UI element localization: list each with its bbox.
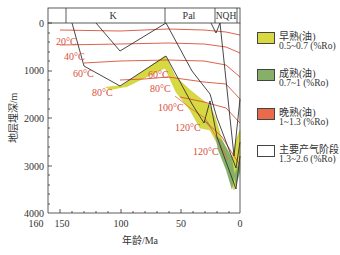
label-100c: 100°C [158,102,184,113]
swatch-gas [257,145,275,157]
legend-range: 1.3~2.6 (%Ro) [279,154,336,164]
ytick-3000: 3000 [24,161,44,172]
legend-range: 1~1.3 (%Ro) [279,117,328,127]
isotherm-20 [60,29,240,35]
ytick-2000: 2000 [24,113,44,124]
unit-NQH: NQH [216,11,237,21]
label-120c-2: 120°C [193,146,219,157]
xtick-150: 150 [55,218,70,229]
legend-range: 0.5~0.7 (%Ro) [279,41,336,51]
swatch-early [257,32,275,44]
label-40c: 40°C [64,51,85,62]
label-60c-2: 60°C [148,69,169,80]
isotherms [60,29,240,165]
burial-history-chart: K Pal NQH 20°C 40°C 60°C 80°C 60 [0,0,250,255]
xtick-100: 100 [114,218,129,229]
y-axis-label: 地层埋深/m [7,93,19,144]
label-80c: 80°C [92,87,113,98]
burial-curves [72,23,240,189]
label-80c-2: 80°C [150,83,171,94]
label-120c: 120°C [175,122,201,133]
isotherm-40 [60,43,240,53]
xtick-160: 160 [29,218,44,229]
maturity-zones [105,56,240,190]
legend: 早熟(油) 0.5~0.7 (%Ro) 成熟(油) 0.7~1 (%Ro) 晚熟… [251,0,340,200]
stratigraphy-band: K Pal NQH [48,8,240,23]
ytick-0: 0 [39,18,44,29]
swatch-mature [257,69,275,81]
label-20c: 20°C [56,36,77,47]
xtick-50: 50 [176,218,186,229]
xtick-0: 0 [238,218,243,229]
unit-K: K [109,10,117,21]
label-60c: 60°C [73,68,94,79]
ytick-1000: 1000 [24,65,44,76]
x-axis-label: 年龄/Ma [122,234,159,246]
legend-range: 0.7~1 (%Ro) [279,78,328,88]
unit-Pal: Pal [183,10,196,21]
swatch-late [257,108,275,120]
